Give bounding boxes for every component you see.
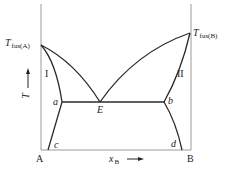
phase-diagram: Tfus(A) Tfus(B) I II a b E c d A B T xB — [0, 0, 229, 177]
t-fus-a-main: T — [5, 37, 11, 48]
t-fus-b-main: T — [193, 27, 199, 38]
region-1-label: I — [45, 69, 48, 79]
liquidus-curve-a — [41, 45, 100, 102]
x-axis-arrow-icon — [138, 157, 144, 161]
t-fus-a-label: Tfus(A) — [5, 38, 30, 50]
component-a-label: A — [36, 154, 43, 164]
region-2-label: II — [177, 69, 184, 79]
y-axis-arrow-icon — [26, 68, 30, 74]
point-e-label: E — [97, 105, 103, 115]
x-axis-main: x — [109, 153, 113, 164]
point-d-label: d — [171, 139, 176, 149]
x-axis-sub: B — [114, 158, 119, 166]
x-axis-label: xB — [109, 154, 119, 166]
y-axis-label: T — [21, 93, 31, 99]
point-b-label: b — [168, 96, 173, 106]
point-a-label: a — [53, 97, 58, 107]
component-b-label: B — [187, 154, 194, 164]
t-fus-a-sub: fus(A) — [12, 42, 30, 50]
t-fus-b-label: Tfus(B) — [193, 28, 217, 40]
point-c-label: c — [54, 140, 58, 150]
t-fus-b-sub: fus(B) — [200, 32, 218, 40]
